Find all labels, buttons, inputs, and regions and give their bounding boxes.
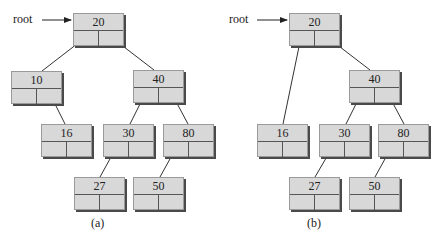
right-pointer (283, 142, 308, 157)
tree-node-80-b: 80 (378, 124, 429, 157)
left-pointer (104, 142, 129, 157)
tree-node-20-b: 20 (289, 13, 340, 46)
tree-node-30-a: 30 (103, 124, 154, 157)
left-pointer (42, 142, 67, 157)
node-value: 20 (290, 14, 339, 31)
node-value: 27 (290, 178, 339, 195)
node-value: 27 (75, 178, 124, 195)
tree-node-27-b: 27 (289, 177, 340, 210)
left-pointer (290, 31, 315, 46)
right-pointer (37, 89, 62, 104)
right-pointer (100, 195, 125, 210)
right-pointer (159, 88, 184, 103)
left-pointer (290, 195, 315, 210)
left-pointer (74, 31, 99, 46)
right-pointer (345, 142, 370, 157)
right-pointer (159, 195, 184, 210)
tree-node-80-a: 80 (163, 124, 214, 157)
tree-node-40-b: 40 (349, 70, 400, 103)
tree-node-30-b: 30 (319, 124, 370, 157)
tree-node-50-b: 50 (349, 177, 400, 210)
caption-b: (b) (307, 216, 321, 231)
left-pointer (258, 142, 283, 157)
node-value: 16 (258, 125, 307, 142)
node-value: 80 (379, 125, 428, 142)
right-pointer (404, 142, 429, 157)
caption-a: (a) (91, 216, 104, 231)
tree-node-16-a: 16 (41, 124, 92, 157)
node-value: 16 (42, 125, 91, 142)
right-pointer (315, 195, 340, 210)
left-pointer (350, 88, 375, 103)
left-pointer (134, 88, 159, 103)
tree-node-27-a: 27 (74, 177, 125, 210)
node-value: 20 (74, 14, 123, 31)
tree-node-20-a: 20 (73, 13, 124, 46)
left-pointer (164, 142, 189, 157)
left-pointer (379, 142, 404, 157)
edge-20-16-b (283, 37, 301, 124)
tree-node-40-a: 40 (133, 70, 184, 103)
left-pointer (75, 195, 100, 210)
tree-node-16-b: 16 (257, 124, 308, 157)
left-pointer (320, 142, 345, 157)
root-label-a: root (13, 12, 32, 27)
right-pointer (99, 31, 124, 46)
root-label-b: root (229, 12, 248, 27)
right-pointer (189, 142, 214, 157)
right-pointer (375, 195, 400, 210)
right-pointer (67, 142, 92, 157)
node-value: 30 (320, 125, 369, 142)
tree-node-10-a: 10 (11, 71, 62, 104)
bst-delete-diagram: root 20 10 40 16 30 80 27 50 (a) (0, 0, 447, 242)
left-pointer (134, 195, 159, 210)
left-pointer (12, 89, 37, 104)
node-value: 50 (134, 178, 183, 195)
node-value: 40 (134, 71, 183, 88)
node-value: 80 (164, 125, 213, 142)
node-value: 10 (12, 72, 61, 89)
right-pointer (129, 142, 154, 157)
node-value: 30 (104, 125, 153, 142)
node-value: 50 (350, 178, 399, 195)
tree-node-50-a: 50 (133, 177, 184, 210)
node-value: 40 (350, 71, 399, 88)
right-pointer (315, 31, 340, 46)
right-pointer (375, 88, 400, 103)
left-pointer (350, 195, 375, 210)
